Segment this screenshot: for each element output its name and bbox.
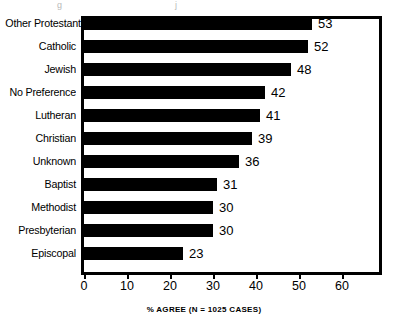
x-tick-label-40: 40 [241, 279, 271, 293]
bar-value-episcopal: 23 [189, 246, 203, 261]
bar-christian [84, 132, 252, 145]
bar-row: 41 [84, 109, 382, 122]
bar-value-unknown: 36 [245, 154, 259, 169]
x-tick-60 [342, 272, 344, 279]
category-label-episcopal: Episcopal [5, 247, 76, 260]
bar-methodist [84, 201, 213, 214]
bar-row: 48 [84, 63, 382, 76]
category-label-no-preference: No Preference [5, 86, 76, 99]
x-tick-label-0: 0 [69, 279, 99, 293]
artifact-glyph-right: j [175, 0, 177, 10]
bar-row: 42 [84, 86, 382, 99]
x-tick-40 [256, 272, 258, 279]
x-tick-30 [213, 272, 215, 279]
bar-chart: g j Other Protestant Catholic Jewish No … [0, 0, 408, 324]
x-tick-10 [127, 272, 129, 279]
bar-row: 39 [84, 132, 382, 145]
category-label-lutheran: Lutheran [5, 109, 76, 122]
category-label-unknown: Unknown [5, 155, 76, 168]
x-tick-50 [299, 272, 301, 279]
bar-other-protestant [84, 17, 312, 30]
bar-row: 30 [84, 201, 382, 214]
category-label-column: Other Protestant Catholic Jewish No Pref… [0, 17, 76, 270]
bar-lutheran [84, 109, 260, 122]
bar-row: 53 [84, 17, 382, 30]
bar-episcopal [84, 247, 183, 260]
bar-value-methodist: 30 [219, 200, 233, 215]
bar-unknown [84, 155, 239, 168]
bar-value-no-preference: 42 [271, 85, 285, 100]
category-label-baptist: Baptist [5, 178, 76, 191]
bars-layer: 53 52 48 42 41 39 36 31 [84, 17, 382, 270]
x-tick-label-60: 60 [327, 279, 357, 293]
x-tick-label-30: 30 [198, 279, 228, 293]
bar-no-preference [84, 86, 265, 99]
x-tick-label-50: 50 [284, 279, 314, 293]
bar-row: 30 [84, 224, 382, 237]
bar-value-presbyterian: 30 [219, 223, 233, 238]
bar-catholic [84, 40, 308, 53]
category-label-presbyterian: Presbyterian [5, 224, 76, 237]
category-label-methodist: Methodist [5, 201, 76, 214]
x-tick-label-20: 20 [155, 279, 185, 293]
bar-value-lutheran: 41 [266, 108, 280, 123]
x-tick-20 [170, 272, 172, 279]
x-tick-0 [84, 272, 86, 279]
category-label-catholic: Catholic [5, 40, 76, 53]
bar-row: 36 [84, 155, 382, 168]
bar-jewish [84, 63, 291, 76]
bar-row: 31 [84, 178, 382, 191]
bar-value-christian: 39 [258, 131, 272, 146]
bar-value-catholic: 52 [314, 39, 328, 54]
bar-row: 52 [84, 40, 382, 53]
category-label-other-protestant: Other Protestant [5, 17, 76, 30]
x-axis-caption: % AGREE (N = 1025 CASES) [0, 305, 408, 314]
bar-value-jewish: 48 [297, 62, 311, 77]
bar-baptist [84, 178, 217, 191]
x-axis: 0 10 20 30 40 50 60 [84, 272, 382, 286]
category-label-jewish: Jewish [5, 63, 76, 76]
category-label-christian: Christian [5, 132, 76, 145]
bar-presbyterian [84, 224, 213, 237]
bar-value-other-protestant: 53 [318, 16, 332, 31]
x-tick-label-10: 10 [112, 279, 142, 293]
cropped-text-artifacts: g j [0, 0, 408, 10]
artifact-glyph-left: g [57, 0, 62, 10]
bar-value-baptist: 31 [223, 177, 237, 192]
bar-row: 23 [84, 247, 382, 260]
